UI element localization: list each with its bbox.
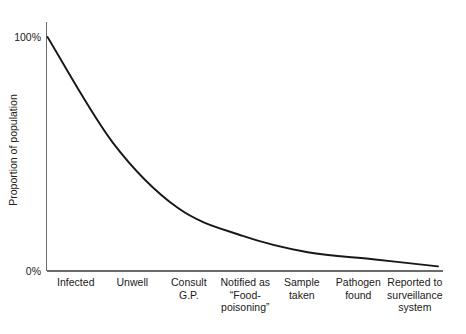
decay-curve (48, 37, 439, 266)
x-axis-label-5: found (345, 289, 371, 301)
x-axis-label-3: “Food- (230, 289, 261, 301)
x-axis-label-6: Reported to (387, 276, 442, 288)
x-axis-label-4: taken (289, 289, 315, 301)
x-axis-category-labels: InfectedUnwellConsultG.P.Notified as“Foo… (57, 276, 443, 313)
x-axis-label-1: Unwell (117, 276, 149, 288)
x-axis-label-5: Pathogen (336, 276, 381, 288)
x-axis-label-4: Sample (284, 276, 320, 288)
x-axis-label-2: G.P. (179, 289, 199, 301)
x-axis-label-3: poisoning” (221, 301, 270, 313)
chart-figure: 100% 0% Proportion of population Infecte… (0, 0, 466, 334)
y-tick-label-100: 100% (14, 31, 41, 43)
x-axis-label-6: system (398, 301, 432, 313)
x-axis-label-2: Consult (171, 276, 207, 288)
chart-canvas: 100% 0% Proportion of population Infecte… (0, 0, 466, 334)
y-axis-title: Proportion of population (7, 94, 19, 206)
x-axis-label-6: surveillance (387, 289, 443, 301)
y-tick-label-0: 0% (26, 265, 41, 277)
x-axis-label-0: Infected (57, 276, 95, 288)
x-axis-label-3: Notified as (220, 276, 270, 288)
